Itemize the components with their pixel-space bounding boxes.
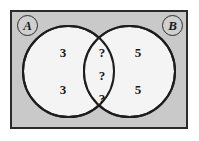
region-intersection-value: ? — [99, 46, 106, 59]
region-intersection-values: ? ? ? — [93, 46, 111, 105]
set-label-a: A — [17, 15, 38, 36]
set-label-b-text: B — [168, 19, 177, 32]
set-label-a-text: A — [23, 19, 32, 32]
region-b-only-value: 5 — [135, 46, 142, 59]
venn-diagram-figure: A B 3 3 ? ? ? 5 5 — [0, 0, 199, 141]
region-b-only-values: 5 5 — [125, 46, 151, 96]
set-label-b: B — [162, 15, 183, 36]
region-a-only-values: 3 3 — [50, 46, 76, 96]
region-a-only-value: 3 — [60, 46, 67, 59]
region-intersection-value: ? — [99, 92, 106, 105]
region-intersection-value: ? — [99, 69, 106, 82]
region-b-only-value: 5 — [135, 83, 142, 96]
region-a-only-value: 3 — [60, 83, 67, 96]
